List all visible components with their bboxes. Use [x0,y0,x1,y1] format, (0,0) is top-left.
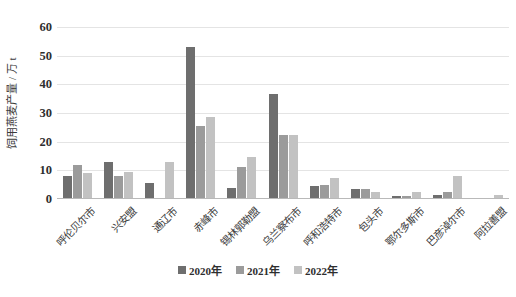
y-axis-title-text: 饲用燕麦产量 / 万 t [3,57,19,148]
bar-group [98,27,139,199]
bar[interactable] [206,117,215,199]
bar[interactable] [289,135,298,200]
bar[interactable] [269,94,278,199]
x-tick-label: 包头市 [355,203,387,235]
bar[interactable] [186,47,195,199]
x-tick-label: 巴彦淖尔市 [423,203,469,249]
bar[interactable] [330,178,339,200]
bar[interactable] [73,165,82,199]
legend-label: 2022年 [305,262,338,278]
bar[interactable] [104,162,113,199]
bar[interactable] [63,176,72,199]
x-label-slot: 呼伦贝尔市 [57,201,98,261]
bar[interactable] [237,167,246,199]
x-label-slot: 赤峰市 [180,201,221,261]
x-axis-line [57,198,509,199]
y-tick-label: 20 [22,134,52,149]
bar[interactable] [124,172,133,199]
x-tick-label: 鄂尔多斯市 [381,203,427,249]
x-tick-label: 阿拉善盟 [471,203,510,242]
bar[interactable] [83,173,92,199]
x-label-slot: 呼和浩特市 [304,201,345,261]
bar[interactable] [196,126,205,199]
legend-item[interactable]: 2020年 [178,262,222,278]
x-label-slot: 兴安盟 [98,201,139,261]
bar-group [262,27,303,199]
legend-swatch-icon [236,266,244,274]
legend-item[interactable]: 2021年 [236,262,280,278]
bar-group [427,27,468,199]
bar-chart: 饲用燕麦产量 / 万 t 0102030405060 呼伦贝尔市兴安盟通辽市赤峰… [0,0,516,297]
x-tick-label: 通辽市 [149,203,181,235]
x-tick-label: 赤峰市 [190,203,222,235]
legend: 2020年2021年2022年 [0,262,516,278]
plot-area [57,27,509,199]
x-label-slot: 巴彦淖尔市 [427,201,468,261]
bar[interactable] [165,162,174,199]
y-tick-label: 30 [22,106,52,121]
y-tick-label: 40 [22,77,52,92]
y-tick-label: 0 [22,192,52,207]
bar-group [139,27,180,199]
bar[interactable] [453,176,462,199]
legend-label: 2020年 [189,262,222,278]
x-tick-label: 兴安盟 [108,203,140,235]
bar-group [304,27,345,199]
bars-layer [57,27,509,199]
x-tick-label: 乌兰察布市 [258,203,304,249]
bar-group [221,27,262,199]
legend-label: 2021年 [247,262,280,278]
y-axis-title: 饲用燕麦产量 / 万 t [0,0,22,205]
y-axis-tick-labels: 0102030405060 [22,0,56,210]
legend-swatch-icon [294,266,302,274]
x-tick-label: 呼伦贝尔市 [53,203,99,249]
x-tick-label: 呼和浩特市 [299,203,345,249]
x-label-slot: 包头市 [345,201,386,261]
legend-item[interactable]: 2022年 [294,262,338,278]
bar[interactable] [320,185,329,199]
x-label-slot: 鄂尔多斯市 [386,201,427,261]
bar-group [180,27,221,199]
bar[interactable] [114,176,123,199]
x-label-slot: 乌兰察布市 [262,201,303,261]
x-label-slot: 阿拉善盟 [468,201,509,261]
y-tick-label: 60 [22,20,52,35]
x-label-slot: 锡林郭勒盟 [221,201,262,261]
bar-group [386,27,427,199]
y-tick-label: 50 [22,48,52,63]
bar-group [345,27,386,199]
y-tick-label: 10 [22,163,52,178]
bar-group [57,27,98,199]
bar-group [468,27,509,199]
x-label-slot: 通辽市 [139,201,180,261]
x-axis-tick-labels: 呼伦贝尔市兴安盟通辽市赤峰市锡林郭勒盟乌兰察布市呼和浩特市包头市鄂尔多斯市巴彦淖… [57,201,509,261]
legend-swatch-icon [178,266,186,274]
bar[interactable] [247,157,256,199]
bar[interactable] [279,135,288,200]
x-tick-label: 锡林郭勒盟 [217,203,263,249]
bar[interactable] [145,183,154,199]
